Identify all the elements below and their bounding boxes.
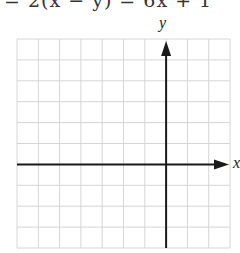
x-axis-arrow-icon [214,159,229,169]
x-axis-label: x [233,154,240,172]
y-axis-arrow-icon [161,41,171,56]
coordinate-grid [0,0,240,253]
y-axis [161,41,171,248]
grid-lines [17,39,230,248]
y-axis-label: y [159,14,166,32]
